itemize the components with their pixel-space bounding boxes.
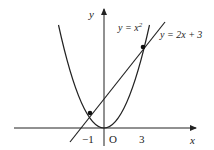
intersection-point-right [141,45,146,50]
parabola-label-text: y = x [118,22,139,33]
line-label: y = 2x + 3 [160,30,202,40]
y-axis-label: y [89,9,94,20]
graph-canvas [0,0,214,150]
intersection-point-left [88,111,93,116]
tick-label-3: 3 [139,134,145,145]
origin-label: O [109,134,117,145]
parabola-label: y = x2 [118,22,142,33]
line-curve [70,22,165,142]
parabola-label-exponent: 2 [139,21,143,29]
tick-label-neg1: −1 [82,134,94,145]
x-axis-label: x [190,135,195,146]
